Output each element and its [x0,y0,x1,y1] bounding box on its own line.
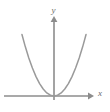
y-axis-label: y [51,5,56,15]
graph-canvas: y x [0,0,110,112]
x-axis-label: x [97,88,102,98]
y-axis-arrow-icon [51,16,58,22]
parabola-figure: y x [0,0,110,112]
x-axis-arrow-icon [88,93,94,100]
